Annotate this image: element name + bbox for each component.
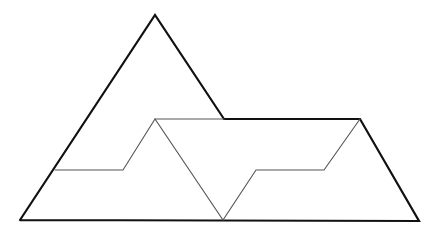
zigzag-cut-line (55, 119, 360, 220)
diagram-canvas (0, 0, 441, 234)
dissection-diagram (0, 0, 441, 234)
outer-outline (20, 15, 419, 221)
